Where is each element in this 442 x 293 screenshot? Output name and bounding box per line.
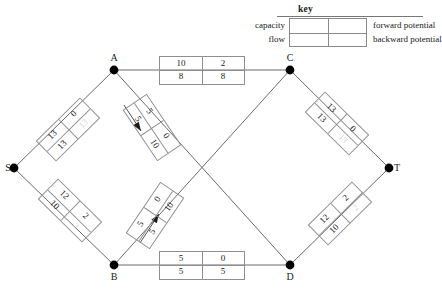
node-label-d: D [286,272,293,282]
node-label-a: A [110,53,117,63]
edge-b-d-backward-potential: 5 [202,265,244,279]
key-label-capacity: capacity [255,20,285,30]
node-dot-a [110,66,119,75]
edge-a-c-flow: 8 [160,70,202,84]
edge-a-c-backward-potential: 8 [202,70,244,84]
key-title: key [298,4,313,14]
node-dot-b [110,261,119,270]
key-legend: key capacity flow forward potential back… [232,4,436,48]
key-table-horizontal-divider [290,33,366,34]
node-label-b: B [111,272,118,282]
edge-a-c-forward-potential: 2 [202,57,244,71]
key-label-flow: flow [269,34,286,44]
node-dot-s [10,164,19,173]
node-dot-t [385,164,394,173]
node-label-s: S [5,163,11,173]
key-label-forward-potential: forward potential [373,20,435,30]
edge-label-box-b-d: 5055 [159,251,245,280]
edge-a-c-capacity: 10 [160,57,202,71]
edge-b-d-forward-potential: 0 [202,252,244,266]
edge-b-d-capacity: 5 [160,252,202,266]
key-title-rule [277,16,423,17]
key-table [289,18,367,47]
key-label-backward-potential: backward potential [373,34,442,44]
node-label-c: C [287,53,294,63]
edge-b-d-flow: 5 [160,265,202,279]
node-dot-d [286,261,295,270]
edge-label-box-a-c: 10288 [159,56,245,85]
node-dot-c [286,66,295,75]
node-label-t: T [394,163,400,173]
